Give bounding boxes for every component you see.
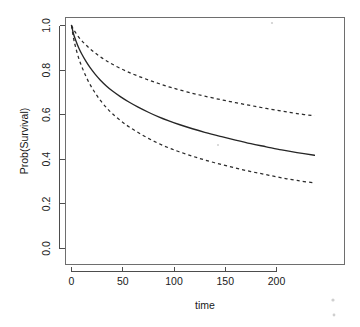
x-tick-label-150: 150 — [216, 275, 234, 287]
y-tick-label-0.0: 0.0 — [40, 241, 52, 256]
speck-mid — [217, 144, 219, 146]
y-axis: 1.0 0.8 0.6 0.4 0.2 0.0 — [40, 18, 65, 256]
y-tick-label-0.2: 0.2 — [40, 196, 52, 211]
x-axis: 0 50 100 150 200 — [69, 267, 286, 288]
speck-top — [271, 22, 273, 24]
survival-plot: 1.0 0.8 0.6 0.4 0.2 0.0 0 50 100 150 200… — [0, 0, 360, 327]
y-tick-label-1.0: 1.0 — [40, 18, 52, 33]
x-tick-label-100: 100 — [165, 275, 183, 287]
upper-confidence-curve — [72, 26, 315, 116]
y-tick-label-0.4: 0.4 — [40, 152, 52, 167]
speck-lower-right-a — [331, 298, 334, 301]
curve-group — [72, 26, 315, 183]
lower-confidence-curve — [72, 26, 315, 183]
x-tick-label-50: 50 — [117, 275, 129, 287]
chart-container: 1.0 0.8 0.6 0.4 0.2 0.0 0 50 100 150 200… — [0, 0, 360, 327]
survival-curve — [72, 26, 315, 156]
x-tick-label-200: 200 — [268, 275, 286, 287]
plot-frame — [66, 18, 345, 265]
x-axis-title: time — [195, 299, 215, 311]
y-tick-label-0.8: 0.8 — [40, 63, 52, 78]
speck-lower-right-b — [333, 314, 336, 317]
scan-artifacts — [217, 22, 335, 317]
x-tick-label-0: 0 — [69, 275, 75, 287]
y-tick-label-0.6: 0.6 — [40, 107, 52, 122]
y-axis-title: Prob(Survival) — [18, 108, 30, 175]
